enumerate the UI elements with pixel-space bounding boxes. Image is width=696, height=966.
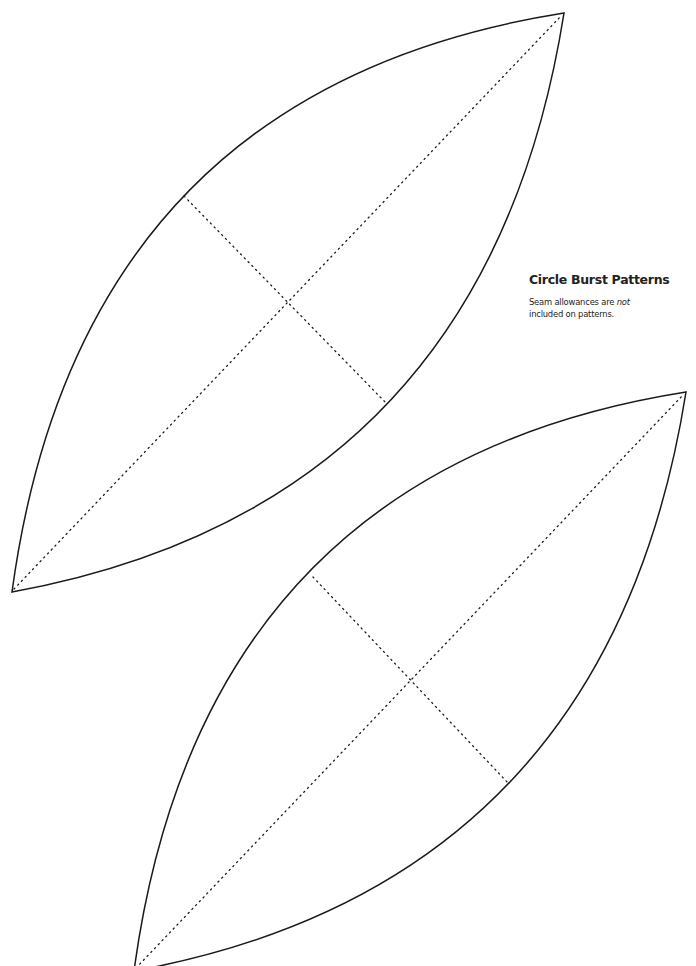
notch-mark: [498, 437, 503, 439]
seam-allowance-note: Seam allowances are not included on patt…: [529, 296, 696, 320]
note-text: Seam allowances are: [529, 297, 617, 307]
note-text-line2: included on patterns.: [529, 309, 614, 319]
note-emphasis: not: [617, 297, 630, 307]
notch-mark: [348, 434, 352, 437]
page-title: Circle Burst Patterns: [529, 272, 696, 288]
diagonal-fold-line: [136, 395, 683, 966]
title-block: Circle Burst Patterns Seam allowances ar…: [529, 272, 696, 320]
pattern-sheet: [0, 0, 696, 966]
cross-fold-line: [184, 196, 387, 404]
diagonal-fold-line: [14, 16, 561, 589]
leaf-piece-1: [12, 13, 564, 592]
leaf-piece-2: [134, 392, 686, 966]
